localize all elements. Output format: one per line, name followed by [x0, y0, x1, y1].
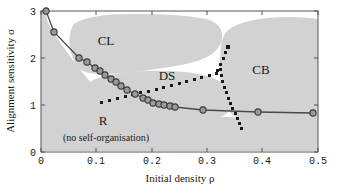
region-label-cl: CL: [98, 33, 115, 48]
phase-diagram-figure: 0 0.1 0.2 0.3 0.4 0.5 0 1 2 3 Initial de…: [0, 0, 342, 191]
xtick-label-1: 0.1: [87, 156, 105, 167]
y-axis-title: Alignment sensitivity σ: [4, 29, 16, 133]
ytick-label-1: 1: [30, 101, 36, 112]
x-axis-title: Initial density ρ: [145, 172, 215, 184]
region-label-r: R: [99, 113, 108, 128]
shaded-regions-group: [41, 11, 318, 151]
region-label-no-self-organisation: (no self-organisation): [63, 132, 149, 144]
xtick-label-0: 0: [38, 156, 44, 167]
phase-diagram-svg: 0 0.1 0.2 0.3 0.4 0.5 0 1 2 3 Initial de…: [0, 0, 342, 191]
region-label-ds: DS: [159, 68, 176, 83]
xtick-label-4: 0.4: [253, 156, 271, 167]
ytick-label-2: 2: [30, 54, 36, 65]
xtick-label-5: 0.5: [309, 156, 327, 167]
xtick-label-2: 0.2: [143, 156, 161, 167]
xtick-label-3: 0.3: [198, 156, 216, 167]
ytick-label-3: 3: [30, 7, 36, 18]
region-label-cb: CB: [252, 62, 270, 77]
ytick-label-0: 0: [30, 148, 36, 159]
